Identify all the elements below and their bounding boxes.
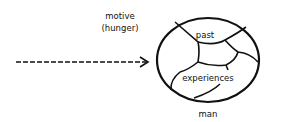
past-label: past (192, 30, 218, 40)
diagram-canvas: motive (hunger) past experiences man (0, 0, 286, 122)
man-caption: man (196, 109, 220, 119)
motive-label: motive (100, 11, 140, 21)
brain-line (194, 84, 220, 98)
brain-line (171, 72, 180, 90)
hunger-label: (hunger) (97, 23, 143, 33)
diagram-graphic (0, 0, 286, 122)
experiences-label: experiences (182, 73, 234, 83)
brain-line (225, 40, 258, 62)
brain-line (198, 52, 238, 66)
brain-line (226, 65, 228, 70)
